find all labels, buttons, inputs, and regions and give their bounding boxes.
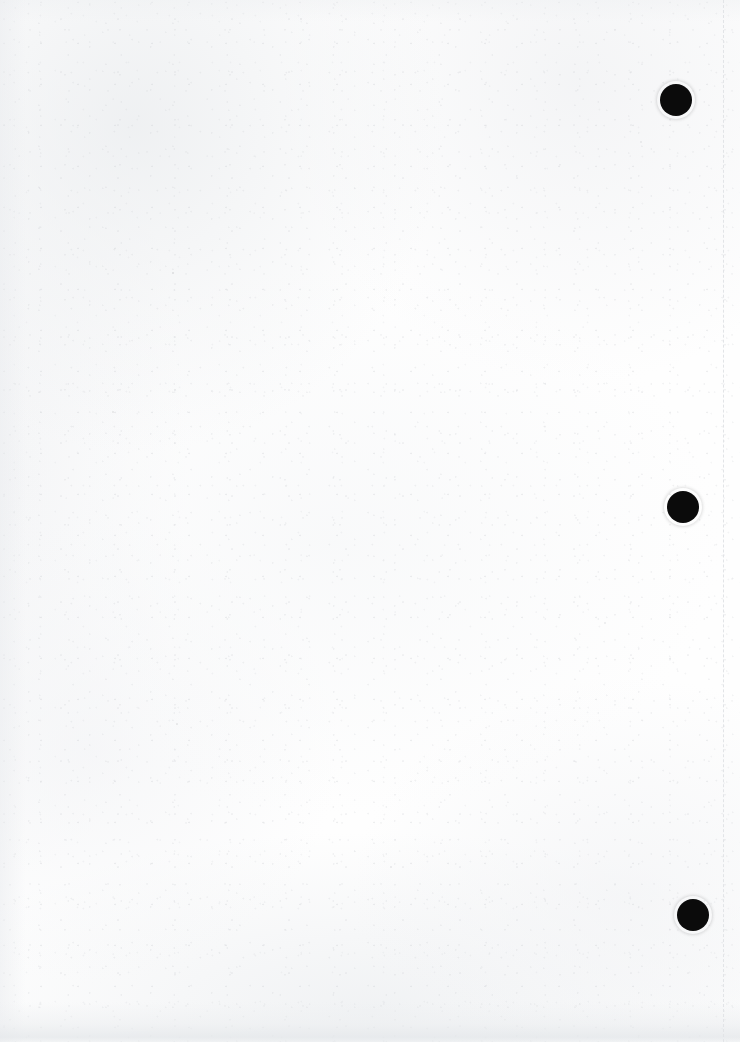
scanned-page — [0, 0, 740, 1042]
speck-upper-left — [172, 272, 174, 274]
registration-dot-top — [660, 84, 692, 116]
registration-dot-middle — [667, 491, 699, 523]
speck-mid-right — [604, 622, 606, 624]
registration-dot-bottom — [677, 899, 709, 931]
speck-top-mid — [300, 18, 302, 20]
speck-lower-left — [176, 723, 178, 725]
speck-lower-mid — [390, 866, 392, 868]
paper-surface — [0, 0, 740, 1042]
speck-mid-left — [112, 411, 114, 413]
speck-upper-right — [640, 141, 642, 143]
